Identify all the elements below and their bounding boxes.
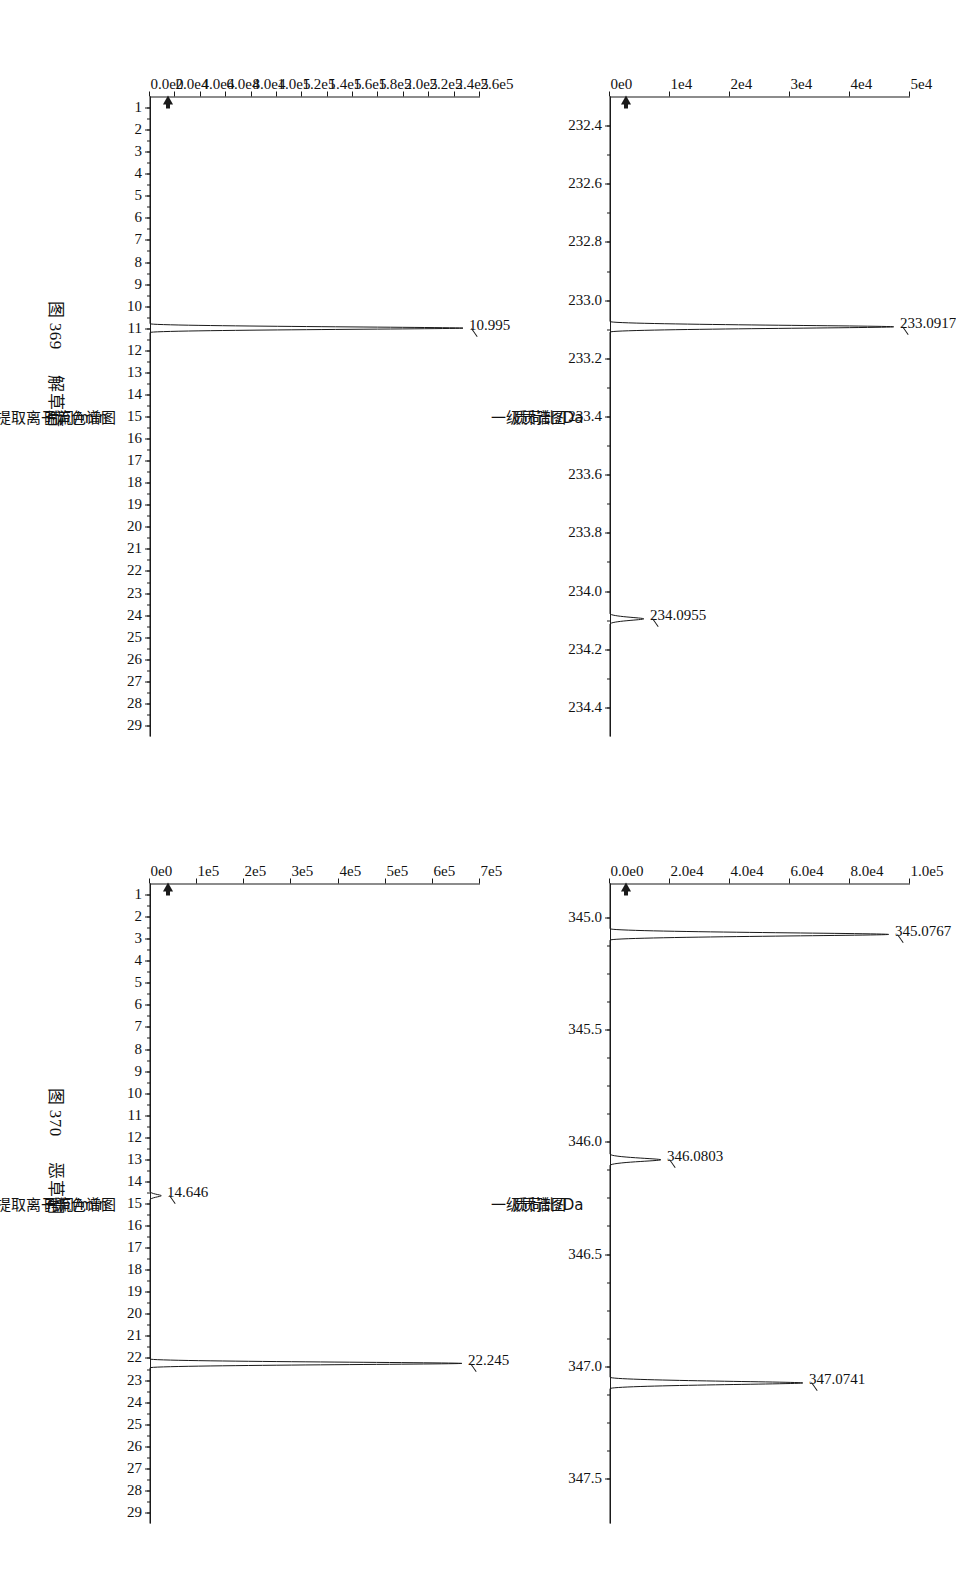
- peak-label: 22.245: [468, 1352, 509, 1367]
- caption-number: 图 370: [46, 1087, 65, 1136]
- x-tick-label: 233.8: [568, 525, 602, 540]
- x-tick-label: 347.0: [568, 1358, 602, 1373]
- x-tick-label: 19: [127, 497, 142, 512]
- x-tick-label: 234.4: [568, 699, 602, 714]
- x-tick-label: 26: [127, 1438, 142, 1453]
- x-tick-label: 347.5: [568, 1471, 602, 1486]
- x-tick-label: 13: [127, 1151, 142, 1166]
- figure-caption-370: 图 370 恶草酮: [45, 1087, 70, 1214]
- x-tick-label: 26: [127, 651, 142, 666]
- x-tick-label: 20: [127, 519, 142, 534]
- x-tick-label: 10: [127, 298, 142, 313]
- x-tick-label: 234.2: [568, 641, 602, 656]
- x-tick-label: 14: [127, 386, 142, 401]
- x-tick-label: 346.5: [568, 1246, 602, 1261]
- peak-label: 14.646: [167, 1184, 208, 1199]
- x-tick-label: 8: [135, 1041, 143, 1056]
- y-tick: [338, 878, 339, 883]
- figure-370: 0.0e02.0e44.0e46.0e48.0e41.0e5345.0345.5…: [0, 787, 950, 1573]
- caption-name: 解草腈: [46, 375, 66, 428]
- caption-number: 图 369: [46, 300, 65, 349]
- x-tick-label: 6: [135, 997, 143, 1012]
- x-tick-label: 19: [127, 1284, 142, 1299]
- x-tick-label: 17: [127, 453, 142, 468]
- x-tick-label: 28: [127, 695, 142, 710]
- peak-label: 233.0917: [900, 315, 956, 330]
- x-tick-label: 21: [127, 1328, 142, 1343]
- x-tick-label: 15: [127, 409, 142, 424]
- x-tick-label: 12: [127, 342, 142, 357]
- peak-label: 347.0741: [809, 1371, 865, 1386]
- x-tick-label: 22: [127, 563, 142, 578]
- x-tick-label: 17: [127, 1240, 142, 1255]
- trace-line: [610, 96, 910, 736]
- x-tick-label: 2: [135, 122, 143, 137]
- x-tick-label: 1: [135, 887, 143, 902]
- x-tick-label: 25: [127, 1416, 142, 1431]
- x-tick-label: 11: [128, 1107, 142, 1122]
- x-tick-label: 21: [127, 541, 142, 556]
- x-tick-label: 14: [127, 1173, 142, 1188]
- x-tick-label: 5: [135, 188, 143, 203]
- peak-label: 345.0767: [895, 923, 951, 938]
- x-tick-label: 5: [135, 975, 143, 990]
- x-tick-label: 25: [127, 629, 142, 644]
- y-tick: [251, 91, 252, 96]
- x-tick-label: 232.8: [568, 234, 602, 249]
- mass-spectrum-369: 0e01e42e43e44e45e4232.4232.6232.8233.023…: [610, 96, 910, 736]
- chromatogram-369: 0.0e02.0e44.0e46.0e48.0e41.0e51.2e51.4e5…: [150, 96, 480, 736]
- x-tick-label: 24: [127, 607, 142, 622]
- y-tick: [454, 91, 455, 96]
- peak-label: 10.995: [469, 317, 510, 332]
- x-tick-label: 233.6: [568, 467, 602, 482]
- x-tick-label: 346.0: [568, 1134, 602, 1149]
- panel-subtitle: 一级质谱图: [491, 406, 566, 427]
- x-tick-label: 12: [127, 1129, 142, 1144]
- x-tick-label: 18: [127, 1262, 142, 1277]
- x-tick-label: 4: [135, 953, 143, 968]
- x-tick-label: 27: [127, 673, 142, 688]
- x-tick-label: 18: [127, 475, 142, 490]
- x-tick-label: 29: [127, 1504, 142, 1519]
- x-tick-label: 29: [127, 717, 142, 732]
- x-tick-label: 345.5: [568, 1021, 602, 1036]
- x-tick-label: 232.4: [568, 118, 602, 133]
- trace-line: [150, 883, 480, 1523]
- x-tick-label: 7: [135, 1019, 143, 1034]
- peak-label: 346.0803: [667, 1148, 723, 1163]
- figure-caption-369: 图 369 解草腈: [45, 300, 70, 427]
- peak-label: 234.0955: [650, 607, 706, 622]
- x-tick-label: 4: [135, 166, 143, 181]
- chromatogram-370: 0e01e52e53e54e55e56e57e51234567891011121…: [150, 883, 480, 1523]
- x-tick-label: 11: [128, 320, 142, 335]
- mass-spectrum-370: 0.0e02.0e44.0e46.0e48.0e41.0e5345.0345.5…: [610, 883, 910, 1523]
- x-tick-label: 23: [127, 1372, 142, 1387]
- x-tick-label: 345.0: [568, 909, 602, 924]
- x-tick-label: 1: [135, 100, 143, 115]
- x-tick-label: 22: [127, 1350, 142, 1365]
- x-tick-label: 232.6: [568, 176, 602, 191]
- x-tick-label: 234.0: [568, 583, 602, 598]
- x-tick-label: 6: [135, 210, 143, 225]
- x-tick-label: 16: [127, 431, 142, 446]
- figure-369: 0e01e42e43e44e45e4232.4232.6232.8233.023…: [0, 0, 950, 786]
- x-tick-label: 2: [135, 909, 143, 924]
- x-tick-label: 3: [135, 144, 143, 159]
- x-tick-label: 10: [127, 1085, 142, 1100]
- x-tick-label: 8: [135, 254, 143, 269]
- trace-line: [150, 96, 480, 736]
- x-tick-label: 9: [135, 1063, 143, 1078]
- x-tick-label: 20: [127, 1306, 142, 1321]
- x-tick-label: 3: [135, 931, 143, 946]
- panel-subtitle: 一级质谱图: [491, 1193, 566, 1214]
- trace-line: [610, 883, 910, 1523]
- x-tick-label: 15: [127, 1196, 142, 1211]
- x-tick-label: 233.2: [568, 350, 602, 365]
- x-tick-label: 23: [127, 585, 142, 600]
- x-tick-label: 24: [127, 1394, 142, 1409]
- x-tick-label: 9: [135, 276, 143, 291]
- x-tick-label: 27: [127, 1460, 142, 1475]
- x-tick-label: 233.0: [568, 292, 602, 307]
- x-tick-label: 13: [127, 364, 142, 379]
